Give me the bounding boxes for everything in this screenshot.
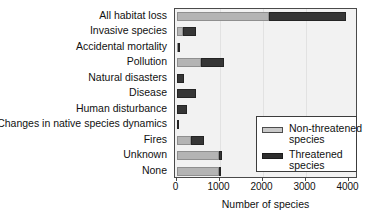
x-tick-label-3000: 3000 [293, 181, 315, 192]
bar-row [175, 9, 356, 24]
legend-label-non-threatened-line2: species [289, 134, 325, 146]
bar-segment-threatened [191, 136, 205, 145]
x-axis: 01000200030004000 [174, 178, 357, 194]
bar-segment-non-threatened [177, 167, 219, 176]
x-axis-title: Number of species [174, 198, 357, 210]
chart-legend: Non-threatened species Threatened specie… [256, 116, 357, 172]
bar-segment-threatened [177, 89, 195, 98]
bar-row [175, 102, 356, 117]
category-label-natural-disasters: Natural disasters [88, 70, 167, 84]
bar-chart: All habitat loss Invasive species Accide… [0, 0, 373, 217]
x-tick-label-0: 0 [173, 181, 179, 192]
bar-segment-threatened [269, 12, 347, 21]
legend-swatch-threatened-icon [262, 153, 283, 159]
bar-segment-non-threatened [177, 58, 201, 67]
legend-swatch-non-threatened-icon [262, 127, 283, 133]
x-tick-label-4000: 4000 [336, 181, 358, 192]
bar-row [175, 55, 356, 70]
bar-segment-non-threatened [177, 151, 219, 160]
category-label-human-disturbance: Human disturbance [76, 101, 167, 115]
category-label-unknown: Unknown [123, 147, 167, 161]
category-label-none: None [142, 163, 167, 177]
bar-segment-threatened [178, 43, 180, 52]
bar-segment-non-threatened [177, 136, 191, 145]
x-tick-label-1000: 1000 [207, 181, 229, 192]
bar-row [175, 86, 356, 101]
bar-row [175, 71, 356, 86]
bar-segment-threatened [219, 167, 221, 176]
category-label-fires: Fires [144, 132, 167, 146]
category-label-disease: Disease [129, 85, 167, 99]
bar-segment-threatened [201, 58, 224, 67]
bar-row [175, 24, 356, 39]
category-label-accidental-mortality: Accidental mortality [76, 39, 167, 53]
category-label-pollution: Pollution [127, 54, 167, 68]
category-label-all-habitat-loss: All habitat loss [99, 8, 167, 22]
category-label-changes-native-dynamics: Changes in native species dynamics [0, 116, 167, 130]
legend-label-threatened-line2: species [289, 160, 325, 172]
bar-segment-threatened [183, 27, 196, 36]
bar-segment-threatened [177, 105, 186, 114]
bar-segment-threatened [219, 151, 222, 160]
category-axis: All habitat loss Invasive species Accide… [0, 8, 171, 178]
category-label-invasive-species: Invasive species [90, 23, 167, 37]
x-tick-label-2000: 2000 [250, 181, 272, 192]
bar-segment-non-threatened [177, 12, 269, 21]
bar-segment-threatened [177, 74, 183, 83]
bar-row [175, 40, 356, 55]
bar-segment-threatened [177, 120, 179, 129]
